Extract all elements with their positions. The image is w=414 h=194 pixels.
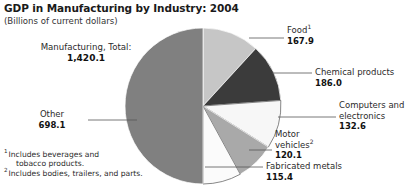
callout-computers-electronics-label-line1: Computers and	[339, 100, 404, 111]
callout-other-label: Other	[18, 109, 86, 120]
footnote-1-text-line2: tobacco products.	[4, 159, 154, 168]
callout-chemical-products: Chemical products 186.0	[315, 67, 394, 88]
callout-computers-electronics: Computers and electronics 132.6	[339, 100, 404, 132]
footnotes: 1Includes beverages and tobacco products…	[4, 150, 154, 178]
callout-motor-vehicles-label-line2: vehicles2	[275, 140, 314, 151]
callout-fabricated-metals: Fabricated metals 115.4	[266, 161, 342, 182]
callout-food-label: Food1	[287, 25, 314, 36]
callout-motor-vehicles-label-line1: Motor	[275, 129, 314, 140]
callout-computers-electronics-label-line2: electronics	[339, 111, 404, 122]
callout-chemical-products-label: Chemical products	[315, 67, 394, 78]
callout-food: Food1 167.9	[287, 25, 314, 46]
footnote-1-text: Includes beverages and	[9, 150, 100, 159]
pie-chart-figure: GDP in Manufacturing by Industry: 2004 (…	[0, 0, 414, 194]
callout-food-value: 167.9	[287, 36, 314, 47]
footnote-ref-2: 2	[310, 138, 314, 145]
footnote-1: 1Includes beverages and	[4, 150, 154, 159]
callout-fabricated-metals-value: 115.4	[266, 172, 342, 183]
callout-other: Other 698.1	[18, 109, 86, 130]
manufacturing-total-label: Manufacturing, Total:	[41, 42, 132, 52]
footnote-1-mark: 1	[4, 148, 8, 154]
manufacturing-total-block: Manufacturing, Total: 1,420.1	[16, 42, 156, 64]
manufacturing-total-value: 1,420.1	[16, 53, 156, 64]
callout-other-value: 698.1	[18, 120, 86, 131]
callout-chemical-products-value: 186.0	[315, 78, 394, 89]
footnote-ref-1: 1	[307, 23, 311, 30]
callout-computers-electronics-value: 132.6	[339, 121, 404, 132]
footnote-2: 2Includes bodies, trailers, and parts.	[4, 169, 154, 178]
footnote-2-mark: 2	[4, 167, 8, 173]
callout-motor-vehicles: Motor vehicles2 120.1	[275, 129, 314, 161]
callout-motor-vehicles-value: 120.1	[275, 150, 314, 161]
footnote-2-text: Includes bodies, trailers, and parts.	[9, 169, 143, 178]
callout-fabricated-metals-label: Fabricated metals	[266, 161, 342, 172]
